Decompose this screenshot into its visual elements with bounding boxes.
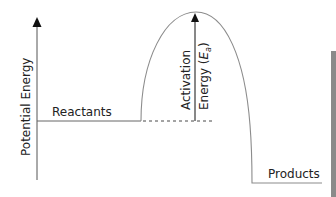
energy-diagram: Potential Energy Reactants Activation En… xyxy=(0,0,336,197)
y-axis xyxy=(33,17,42,180)
activation-arrowhead-icon xyxy=(191,13,199,22)
products-label: Products xyxy=(268,167,320,181)
activation-label-line2: Energy (Ea) xyxy=(197,42,213,110)
energy-curve xyxy=(141,12,322,183)
y-axis-arrow-icon xyxy=(33,17,42,27)
y-axis-label: Potential Energy xyxy=(19,58,33,156)
activation-energy-label: Activation Energy (Ea) xyxy=(179,42,213,110)
reactants-label: Reactants xyxy=(52,105,112,119)
activation-label-line1: Activation xyxy=(179,50,193,110)
side-bar-decoration xyxy=(331,51,336,197)
